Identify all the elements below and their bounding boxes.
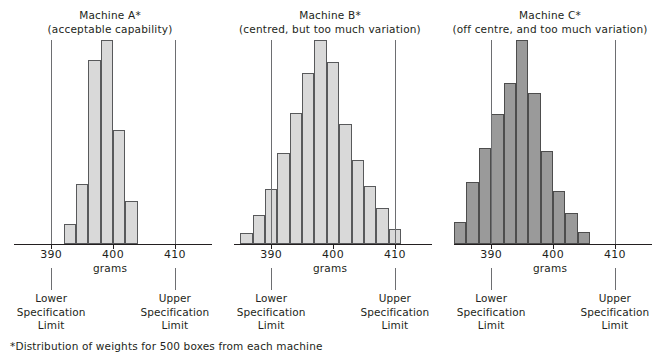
- lower-specification-limit-label: LowerSpecificationLimit: [0, 292, 106, 333]
- chart-title-machine-a: Machine A* (acceptable capability): [0, 8, 220, 36]
- plot-area-machine-b: [220, 40, 440, 245]
- spec-limit-leader-line: [175, 268, 176, 290]
- histogram-bar: [528, 93, 540, 244]
- histogram-bar: [302, 73, 314, 244]
- histogram-bar: [565, 213, 577, 244]
- spec-limit-label-line: Upper: [560, 292, 659, 306]
- spec-limit-label-line: Specification: [120, 306, 230, 320]
- spec-limit-label-line: Specification: [436, 306, 546, 320]
- lower-spec-limit-line: [51, 40, 52, 244]
- chart-subtitle-line: (off centre, and too much variation): [440, 22, 659, 36]
- spec-limit-label-line: Limit: [120, 319, 230, 333]
- upper-spec-limit-line: [615, 40, 616, 244]
- spec-limit-label-line: Specification: [560, 306, 659, 320]
- histogram-bar: [327, 62, 339, 244]
- histogram-bar: [479, 148, 491, 244]
- chart-panel-machine-a: Machine A* (acceptable capability) 39040…: [0, 0, 220, 362]
- histogram-bar: [290, 113, 302, 244]
- histogram-bar: [339, 124, 351, 244]
- histogram-bar: [88, 60, 100, 244]
- spec-limit-leader-line: [491, 268, 492, 290]
- spec-limit-label-line: Upper: [120, 292, 230, 306]
- spec-limit-label-line: Limit: [560, 319, 659, 333]
- histogram-bar: [240, 233, 252, 244]
- lower-specification-limit-label: LowerSpecificationLimit: [216, 292, 326, 333]
- x-axis-tick-label: 390: [471, 248, 511, 261]
- histogram-bar: [253, 215, 265, 244]
- spec-limit-label-line: Specification: [216, 306, 326, 320]
- figure-footnote: *Distribution of weights for 500 boxes f…: [10, 340, 323, 352]
- chart-title-machine-c: Machine C* (off centre, and too much var…: [440, 8, 659, 36]
- spec-limit-label-line: Limit: [436, 319, 546, 333]
- x-axis-tick-label: 410: [595, 248, 635, 261]
- bars-machine-a: [0, 40, 220, 244]
- spec-limit-label-line: Limit: [216, 319, 326, 333]
- upper-specification-limit-label: UpperSpecificationLimit: [340, 292, 450, 333]
- histogram-bar: [277, 153, 289, 244]
- histogram-bar: [113, 130, 125, 244]
- spec-limit-leader-line: [615, 268, 616, 290]
- spec-limit-label-line: Lower: [436, 292, 546, 306]
- chart-title-line: Machine C*: [519, 9, 581, 21]
- histogram-bar: [454, 222, 466, 244]
- chart-title-line: Machine B*: [299, 9, 361, 21]
- spec-limit-leader-line: [51, 268, 52, 290]
- histogram-bar: [578, 232, 590, 244]
- histogram-bar: [64, 224, 76, 244]
- x-axis-tick-label: 410: [155, 248, 195, 261]
- spec-limit-label-line: Lower: [0, 292, 106, 306]
- bars-machine-c: [440, 40, 659, 244]
- histogram-bar: [352, 160, 364, 244]
- lower-spec-limit-line: [271, 40, 272, 244]
- upper-spec-limit-line: [175, 40, 176, 244]
- x-axis-label: grams: [440, 262, 659, 274]
- x-axis-tick-label: 390: [31, 248, 71, 261]
- x-axis-tick-label: 400: [93, 248, 133, 261]
- chart-subtitle-line: (centred, but too much variation): [220, 22, 440, 36]
- histogram-bar: [125, 201, 137, 244]
- x-axis-tick-label: 410: [375, 248, 415, 261]
- histogram-bar: [553, 191, 565, 244]
- spec-limit-label-line: Limit: [0, 319, 106, 333]
- x-axis-tick-label: 400: [533, 248, 573, 261]
- capability-histograms-figure: Machine A* (acceptable capability) 39040…: [0, 0, 659, 362]
- bars-machine-b: [220, 40, 440, 244]
- spec-limit-label-line: Specification: [0, 306, 106, 320]
- histogram-bar: [314, 40, 326, 244]
- histogram-bar: [364, 186, 376, 244]
- x-axis-label: grams: [220, 262, 440, 274]
- histogram-bar: [376, 208, 388, 244]
- lower-specification-limit-label: LowerSpecificationLimit: [436, 292, 546, 333]
- histogram-bar: [101, 40, 113, 244]
- spec-limit-label-line: Limit: [340, 319, 450, 333]
- chart-subtitle-line: (acceptable capability): [0, 22, 220, 36]
- x-axis-tick-label: 390: [251, 248, 291, 261]
- x-axis-tick-label: 400: [313, 248, 353, 261]
- chart-title-line: Machine A*: [79, 9, 141, 21]
- spec-limit-label-line: Specification: [340, 306, 450, 320]
- upper-specification-limit-label: UpperSpecificationLimit: [120, 292, 230, 333]
- histogram-bar: [504, 83, 516, 244]
- chart-panel-machine-c: Machine C* (off centre, and too much var…: [440, 0, 659, 362]
- x-axis-label: grams: [0, 262, 220, 274]
- histogram-bar: [516, 40, 528, 244]
- plot-area-machine-c: [440, 40, 659, 245]
- lower-spec-limit-line: [491, 40, 492, 244]
- upper-specification-limit-label: UpperSpecificationLimit: [560, 292, 659, 333]
- histogram-bar: [541, 151, 553, 244]
- spec-limit-label-line: Lower: [216, 292, 326, 306]
- histogram-bar: [491, 114, 503, 244]
- chart-title-machine-b: Machine B* (centred, but too much variat…: [220, 8, 440, 36]
- chart-panel-machine-b: Machine B* (centred, but too much variat…: [220, 0, 440, 362]
- histogram-bar: [466, 182, 478, 244]
- upper-spec-limit-line: [395, 40, 396, 244]
- plot-area-machine-a: [0, 40, 220, 245]
- spec-limit-label-line: Upper: [340, 292, 450, 306]
- spec-limit-leader-line: [395, 268, 396, 290]
- histogram-bar: [76, 184, 88, 244]
- spec-limit-leader-line: [271, 268, 272, 290]
